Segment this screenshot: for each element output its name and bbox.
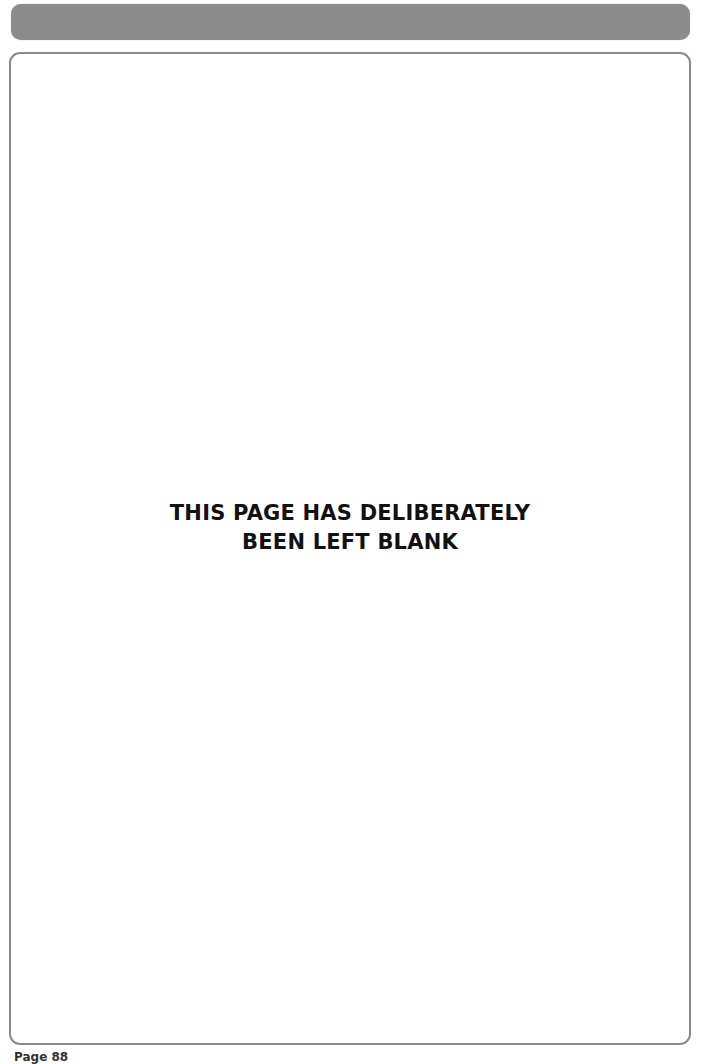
content-frame: THIS PAGE HAS DELIBERATELY BEEN LEFT BLA…: [9, 52, 691, 1045]
blank-page-notice-line-2: BEEN LEFT BLANK: [11, 528, 689, 557]
header-bar: [11, 4, 690, 40]
page-number: Page 88: [14, 1050, 68, 1064]
blank-page-notice-line-1: THIS PAGE HAS DELIBERATELY: [11, 499, 689, 528]
blank-page-notice: THIS PAGE HAS DELIBERATELY BEEN LEFT BLA…: [11, 499, 689, 557]
